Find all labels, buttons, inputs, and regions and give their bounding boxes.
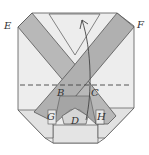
- label-h: H: [97, 112, 106, 122]
- label-g: G: [47, 112, 55, 122]
- label-d: D: [71, 116, 79, 126]
- label-b: B: [57, 88, 64, 98]
- label-f: F: [137, 20, 144, 30]
- bottom-flap: [53, 125, 98, 143]
- label-e: E: [4, 21, 11, 31]
- origami-diagram: [0, 0, 149, 155]
- label-c: C: [91, 88, 99, 98]
